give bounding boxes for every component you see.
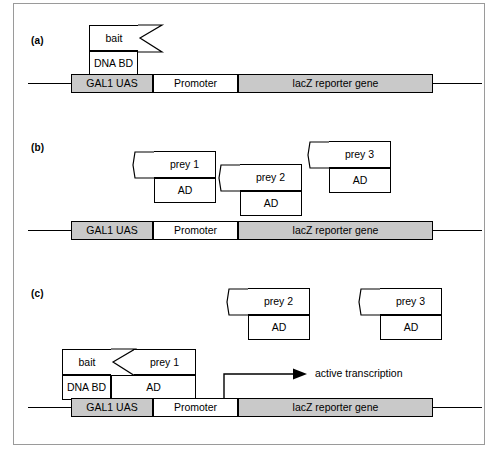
prey-label-b-1: prey 1 [170, 159, 199, 170]
dna-flank-right-c [432, 407, 482, 408]
prey-label-c-2: prey 2 [264, 296, 293, 307]
prey-label-c-1: prey 1 [150, 357, 179, 368]
panel-label-a: (a) [31, 35, 44, 46]
panel-label-c: (c) [31, 288, 44, 299]
ad-box-b-1: AD [154, 178, 216, 203]
ad-box-b-3: AD [329, 168, 391, 193]
segment-lacz-b: lacZ reporter gene [238, 221, 433, 240]
dna-bd-box-c: DNA BD [62, 375, 111, 400]
segment-lacz-a: lacZ reporter gene [238, 74, 433, 93]
prey-box-c-1: prey 1 [134, 349, 196, 375]
ad-label-c-3: AD [404, 322, 419, 333]
ad-label-b-3: AD [353, 175, 368, 186]
segment-label: GAL1 UAS [86, 402, 137, 413]
prey-label-b-3: prey 3 [345, 149, 374, 160]
segment-gal1-uas-b: GAL1 UAS [71, 221, 153, 240]
dna-construct-c: GAL1 UAS Promoter lacZ reporter gene [28, 398, 482, 417]
prey-label-b-2: prey 2 [256, 172, 285, 183]
ad-box-c-2: AD [248, 315, 310, 340]
dna-flank-right-b [432, 230, 482, 231]
segment-label: lacZ reporter gene [293, 78, 379, 89]
bait-label-c: bait [79, 357, 96, 368]
bait-box-a: bait [89, 25, 138, 51]
dna-flank-left-a [28, 83, 71, 84]
transcription-arrow-icon [223, 368, 309, 400]
prey-box-c-2: prey 2 [248, 288, 310, 315]
dna-bd-box-a: DNA BD [89, 51, 138, 75]
ad-box-c-1: AD [111, 375, 196, 400]
prey-box-c-3: prey 3 [380, 288, 442, 315]
segment-gal1-uas-c: GAL1 UAS [71, 398, 153, 417]
ad-label-b-2: AD [264, 198, 279, 209]
segment-label: lacZ reporter gene [293, 402, 379, 413]
segment-label: Promoter [174, 225, 217, 236]
bait-box-c: bait [62, 349, 111, 375]
prey-box-b-1: prey 1 [154, 151, 216, 178]
dna-bd-label-c: DNA BD [67, 382, 106, 393]
segment-label: GAL1 UAS [86, 225, 137, 236]
dna-construct-a: GAL1 UAS Promoter lacZ reporter gene [28, 74, 482, 93]
segment-label: GAL1 UAS [86, 78, 137, 89]
dna-construct-b: GAL1 UAS Promoter lacZ reporter gene [28, 221, 482, 240]
ad-label-b-1: AD [178, 185, 193, 196]
bait-label-a: bait [106, 33, 123, 44]
segment-lacz-c: lacZ reporter gene [238, 398, 433, 417]
ad-box-c-3: AD [380, 315, 442, 340]
transcription-label: active transcription [315, 368, 403, 379]
bait-zigzag-icon-a [137, 24, 164, 53]
segment-gal1-uas-a: GAL1 UAS [71, 74, 153, 93]
dna-flank-left-b [28, 230, 71, 231]
prey-box-b-3: prey 3 [329, 141, 391, 168]
prey-label-c-3: prey 3 [396, 296, 425, 307]
segment-promoter-a: Promoter [153, 74, 238, 93]
dna-flank-left-c [28, 407, 71, 408]
dna-bd-label-a: DNA BD [94, 58, 133, 69]
panel-label-b: (b) [31, 142, 44, 153]
segment-label: lacZ reporter gene [293, 225, 379, 236]
prey-box-b-2: prey 2 [240, 164, 302, 191]
segment-label: Promoter [174, 78, 217, 89]
figure-frame: (a) bait DNA BD GAL1 UAS Promoter lacZ r… [13, 3, 485, 445]
ad-box-b-2: AD [240, 191, 302, 216]
segment-promoter-b: Promoter [153, 221, 238, 240]
dna-flank-right-a [432, 83, 482, 84]
ad-label-c-1: AD [146, 382, 161, 393]
segment-promoter-c: Promoter [153, 398, 238, 417]
segment-label: Promoter [174, 402, 217, 413]
bait-prey-interlock-icon-c [110, 348, 137, 377]
ad-label-c-2: AD [272, 322, 287, 333]
